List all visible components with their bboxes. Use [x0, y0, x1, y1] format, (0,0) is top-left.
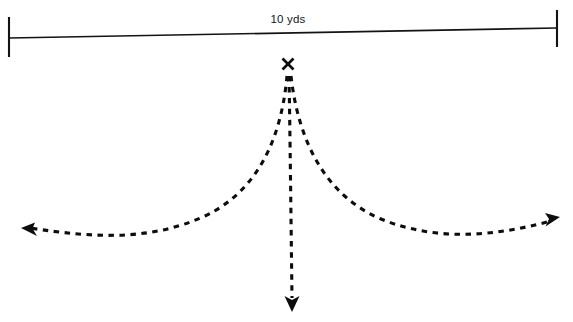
dimension-line [9, 28, 557, 38]
right-curl-route [291, 76, 560, 234]
down-arrowhead-icon [285, 296, 300, 312]
play-diagram-svg: 10 yds [0, 0, 573, 322]
dimension-bar: 10 yds [9, 10, 557, 57]
down-route-path [289, 76, 292, 298]
left-curl-route [21, 76, 287, 236]
play-diagram-canvas: 10 yds [0, 0, 573, 322]
left-route-path [30, 76, 287, 235]
right-arrowhead-icon [545, 213, 560, 227]
right-route-path [291, 76, 551, 234]
x-mark-icon [283, 59, 294, 70]
dimension-label: 10 yds [270, 13, 305, 25]
